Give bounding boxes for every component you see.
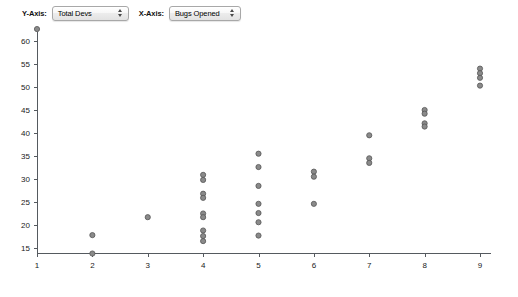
y-tick-label: 40	[21, 129, 30, 138]
scatter-point[interactable]	[477, 83, 482, 88]
scatter-point[interactable]	[145, 215, 150, 220]
x-tick-label: 5	[256, 261, 261, 270]
scatter-point[interactable]	[311, 169, 316, 174]
scatter-point[interactable]	[477, 75, 482, 80]
scatter-point[interactable]	[201, 215, 206, 220]
scatter-point[interactable]	[201, 177, 206, 182]
scatter-point[interactable]	[201, 195, 206, 200]
x-axis-control-group: X-Axis: Bugs Opened	[139, 5, 241, 21]
scatter-point[interactable]	[367, 160, 372, 165]
scatter-point[interactable]	[201, 239, 206, 244]
y-tick-label: 45	[21, 106, 30, 115]
x-tick-label: 7	[367, 261, 372, 270]
scatter-point[interactable]	[90, 233, 95, 238]
scatter-point[interactable]	[34, 26, 39, 31]
y-tick-label: 30	[21, 175, 30, 184]
y-axis-label: Y-Axis:	[22, 9, 47, 18]
scatter-point[interactable]	[311, 174, 316, 179]
y-axis-control-group: Y-Axis: Total Devs	[22, 5, 129, 21]
x-tick-label: 3	[146, 261, 151, 270]
scatter-point[interactable]	[422, 111, 427, 116]
scatter-point[interactable]	[256, 233, 261, 238]
scatter-point[interactable]	[311, 201, 316, 206]
y-tick-label: 60	[21, 37, 30, 46]
scatter-point[interactable]	[256, 183, 261, 188]
scatter-point[interactable]	[256, 210, 261, 215]
scatter-point[interactable]	[201, 233, 206, 238]
y-tick-label: 15	[21, 244, 30, 253]
y-tick-label: 55	[21, 60, 30, 69]
x-tick-label: 8	[422, 261, 427, 270]
scatter-point[interactable]	[90, 251, 95, 256]
x-axis-select[interactable]: Bugs Opened	[169, 6, 241, 21]
up-down-arrows-icon	[229, 7, 236, 20]
scatter-point[interactable]	[422, 124, 427, 129]
x-axis-label: X-Axis:	[139, 9, 164, 18]
scatter-point[interactable]	[256, 201, 261, 206]
up-down-arrows-icon	[117, 7, 124, 20]
scatter-point[interactable]	[256, 220, 261, 225]
y-tick-label: 20	[21, 221, 30, 230]
x-tick-label: 2	[90, 261, 95, 270]
y-axis-ticks: 15202530354045505560	[21, 37, 37, 253]
x-axis-ticks: 123456789	[35, 253, 483, 270]
y-axis-select[interactable]: Total Devs	[52, 6, 129, 21]
y-tick-label: 25	[21, 198, 30, 207]
x-tick-label: 4	[201, 261, 206, 270]
x-tick-label: 1	[35, 261, 40, 270]
data-points	[34, 26, 482, 256]
x-axis-selected-value: Bugs Opened	[170, 9, 220, 18]
x-tick-label: 9	[478, 261, 483, 270]
y-tick-label: 50	[21, 83, 30, 92]
plot-canvas: 15202530354045505560 123456789	[0, 26, 518, 297]
scatter-point[interactable]	[256, 151, 261, 156]
scatter-point[interactable]	[201, 172, 206, 177]
y-tick-label: 35	[21, 152, 30, 161]
y-axis-selected-value: Total Devs	[53, 9, 92, 18]
scatter-point[interactable]	[201, 228, 206, 233]
x-tick-label: 6	[312, 261, 317, 270]
scatter-point[interactable]	[367, 133, 372, 138]
scatter-point[interactable]	[256, 164, 261, 169]
scatter-plot: 15202530354045505560 123456789	[0, 26, 518, 297]
axis-control-bar: Y-Axis: Total Devs X-Axis: Bugs Opened	[0, 0, 518, 26]
